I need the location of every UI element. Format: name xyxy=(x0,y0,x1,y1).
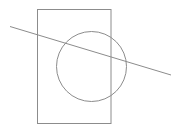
rectangle xyxy=(38,10,112,124)
circle xyxy=(57,32,127,102)
geometry-diagram xyxy=(0,0,180,130)
secant-line xyxy=(10,27,171,76)
